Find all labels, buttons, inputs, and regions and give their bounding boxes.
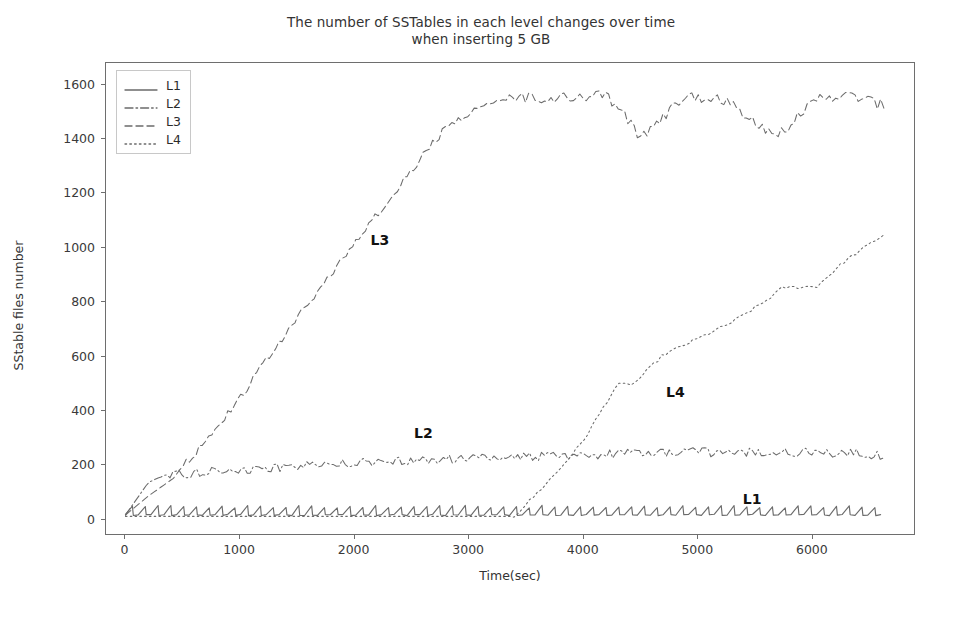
x-axis-title: Time(sec): [105, 568, 915, 583]
y-tick-label: 200: [43, 457, 95, 472]
chart-title: The number of SSTables in each level cha…: [0, 14, 962, 48]
x-tick-mark: [697, 535, 698, 539]
legend-box[interactable]: L1L2L3L4: [116, 70, 191, 154]
series-annotation-l4: L4: [666, 384, 685, 400]
legend-label: L3: [166, 114, 181, 129]
y-tick-label: 800: [43, 294, 95, 309]
legend-swatch-l1-icon: [124, 80, 158, 90]
legend-label: L4: [166, 132, 181, 147]
y-tick-label: 1000: [43, 239, 95, 254]
legend-item-l4[interactable]: L4: [124, 130, 181, 148]
series-line-l2: [125, 448, 883, 515]
y-tick-label: 1400: [43, 131, 95, 146]
series-line-l4: [125, 235, 883, 517]
legend-swatch-l3-icon: [124, 116, 158, 126]
series-annotation-l2: L2: [414, 425, 433, 441]
legend-label: L1: [166, 78, 181, 93]
x-tick-label: 2000: [324, 542, 384, 557]
legend-label: L2: [166, 96, 181, 111]
legend-item-l3[interactable]: L3: [124, 112, 181, 130]
x-tick-label: 0: [94, 542, 154, 557]
y-tick-label: 1200: [43, 185, 95, 200]
series-annotation-l1: L1: [743, 491, 762, 507]
x-tick-label: 5000: [667, 542, 727, 557]
y-tick-label: 0: [43, 511, 95, 526]
plot-area: L1L2L3L4 L1L2L3L4: [105, 62, 915, 535]
x-tick-mark: [354, 535, 355, 539]
figure-canvas: The number of SSTables in each level cha…: [0, 0, 962, 619]
legend-item-l2[interactable]: L2: [124, 94, 181, 112]
series-line-l1: [125, 505, 880, 515]
x-tick-mark: [124, 535, 125, 539]
series-lines: [106, 63, 914, 534]
legend-item-l1[interactable]: L1: [124, 76, 181, 94]
x-tick-mark: [812, 535, 813, 539]
series-annotation-l3: L3: [370, 232, 389, 248]
legend-swatch-l2-icon: [124, 98, 158, 108]
x-tick-mark: [583, 535, 584, 539]
legend-swatch-l4-icon: [124, 134, 158, 144]
y-tick-label: 400: [43, 402, 95, 417]
x-tick-mark: [468, 535, 469, 539]
y-axis-title: SStable files number: [11, 206, 26, 406]
x-tick-label: 1000: [209, 542, 269, 557]
series-line-l3: [125, 91, 883, 515]
x-tick-label: 3000: [438, 542, 498, 557]
x-tick-label: 4000: [553, 542, 613, 557]
x-tick-label: 6000: [782, 542, 842, 557]
y-tick-label: 1600: [43, 76, 95, 91]
x-tick-mark: [239, 535, 240, 539]
y-tick-label: 600: [43, 348, 95, 363]
